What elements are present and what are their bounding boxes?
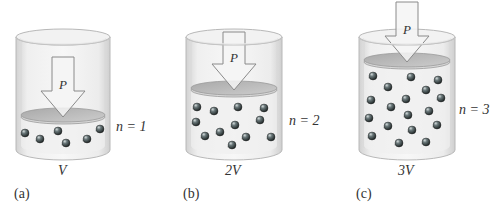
gas-molecule (437, 94, 445, 102)
moles-label-a: n = 1 (116, 119, 146, 135)
gas-molecule (402, 95, 410, 103)
gas-molecule (369, 72, 377, 80)
moles-label-b: n = 2 (289, 113, 319, 129)
gas-molecule (425, 107, 433, 115)
gas-molecule (260, 104, 268, 112)
gas-molecule (231, 121, 239, 129)
cylinder-b: P (186, 29, 282, 160)
gas-molecule (193, 103, 201, 111)
moles-label-c: n = 3 (459, 102, 489, 118)
gas-molecule (422, 86, 430, 94)
gas-molecule (422, 138, 430, 146)
gas-molecule (62, 139, 70, 147)
gas-molecule (242, 133, 250, 141)
volume-label-a: V (58, 163, 67, 179)
cylinder-c: P (359, 2, 455, 160)
gas-molecule (387, 103, 395, 111)
gas-molecule (83, 135, 91, 143)
pressure-label: P (402, 22, 411, 37)
gas-molecule (408, 126, 416, 134)
gas-molecule (36, 135, 44, 143)
panel-label-b: (b) (183, 186, 199, 202)
pressure-label: P (229, 50, 238, 65)
volume-label-b: 2V (225, 163, 241, 179)
gas-molecule (433, 121, 441, 129)
pressure-label: P (58, 77, 67, 92)
gas-molecule (407, 73, 415, 81)
gas-molecule (96, 125, 104, 133)
gas-molecule (210, 107, 218, 115)
gas-molecule (201, 132, 209, 140)
cylinder-a: P (16, 29, 110, 160)
panel-label-a: (a) (14, 186, 30, 202)
gas-molecule (404, 111, 412, 119)
gas-molecule (192, 118, 200, 126)
gas-molecule (368, 132, 376, 140)
gas-molecule (54, 127, 62, 135)
gas-molecule (434, 76, 442, 84)
gas-molecule (267, 133, 275, 141)
gas-molecule (384, 122, 392, 130)
gas-cylinders-diagram: PPP (0, 0, 493, 209)
volume-label-c: 3V (398, 163, 414, 179)
gas-molecule (228, 141, 236, 149)
panel-label-c: (c) (356, 186, 372, 202)
gas-molecule (216, 128, 224, 136)
gas-molecule (234, 103, 242, 111)
gas-molecule (367, 96, 375, 104)
gas-molecule (256, 116, 264, 124)
gas-molecule (384, 83, 392, 91)
gas-molecule (395, 139, 403, 147)
gas-molecule (21, 129, 29, 137)
gas-molecule (365, 114, 373, 122)
